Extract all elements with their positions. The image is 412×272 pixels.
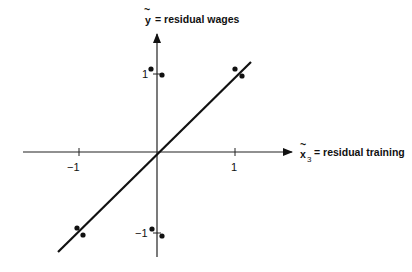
x-tick-label-pos1: 1: [231, 161, 237, 173]
point: [159, 72, 164, 77]
y-tick-label-neg1: −1: [135, 227, 148, 239]
x-axis-subscript: 3: [307, 155, 312, 164]
y-tick-label-pos1: 1: [142, 68, 148, 80]
y-axis-label: = residual wages: [155, 13, 239, 25]
point: [148, 66, 153, 71]
x-axis-variable: x: [300, 148, 306, 160]
x-axis-label: = residual training: [314, 146, 405, 158]
point: [159, 233, 164, 238]
y-axis-variable: y: [145, 14, 151, 26]
point: [232, 66, 237, 71]
regression-line: [58, 62, 251, 252]
point: [80, 232, 85, 237]
residual-plot: −1 1 1 −1 ~ y = residual wages ~ x 3 = r…: [0, 0, 412, 272]
point: [239, 73, 244, 78]
x-tick-label-neg1: −1: [67, 161, 80, 173]
point: [149, 226, 154, 231]
point: [74, 225, 79, 230]
